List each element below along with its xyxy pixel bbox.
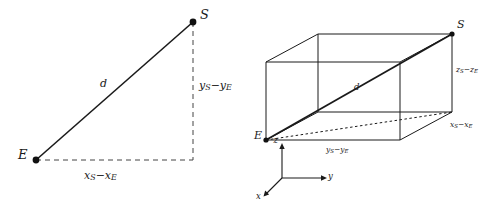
svg-3d <box>250 0 493 211</box>
point-S-dot-3d <box>449 31 454 36</box>
base-diagonal-dotted <box>266 112 452 140</box>
hypotenuse-line <box>36 22 193 160</box>
x-sub-E: E <box>111 173 117 182</box>
point-E-dot <box>33 157 40 164</box>
axis-y-label: y <box>328 172 333 181</box>
point-E-dot-3d <box>263 137 268 142</box>
vertical-leg-label-2d: yS−yE <box>199 80 232 92</box>
point-E-label-3d: E <box>254 130 262 141</box>
point-S-label-2d: S <box>200 8 209 21</box>
y3-sub-E: E <box>345 148 349 154</box>
axis-z-label: z <box>274 136 278 145</box>
axis-x-label: x <box>256 192 261 201</box>
minus-sign-2: − <box>96 169 105 182</box>
y-sub-E: E <box>226 83 232 92</box>
horizontal-leg-label-2d: xS−xE <box>84 170 117 182</box>
axis-y-arrowhead <box>321 175 327 180</box>
panel-3d-box: E S d zS−zE xS−xE yS−yE z y x <box>250 0 493 211</box>
distance-label-2d: d <box>100 78 107 89</box>
svg-2d <box>0 0 240 211</box>
x-leg-label-3d: xS−xE <box>450 121 472 129</box>
distance-label-3d: d <box>354 83 359 92</box>
x3-sub-E: E <box>468 123 472 129</box>
z-sub-E: E <box>474 68 478 74</box>
point-S-dot <box>190 19 197 26</box>
diagram-root: E S d yS−yE xS−xE <box>0 0 493 211</box>
z-leg-label-3d: zS−zE <box>456 66 478 74</box>
point-S-label-3d: S <box>457 19 465 30</box>
point-E-label-2d: E <box>18 148 28 161</box>
minus-sign-1: − <box>211 79 220 92</box>
panel-2d-right-triangle: E S d yS−yE xS−xE <box>0 0 240 211</box>
axis-z-arrowhead <box>279 143 284 149</box>
axis-x-line <box>266 178 282 194</box>
y-leg-label-3d: yS−yE <box>326 146 348 154</box>
box-edge-tl <box>266 34 318 62</box>
